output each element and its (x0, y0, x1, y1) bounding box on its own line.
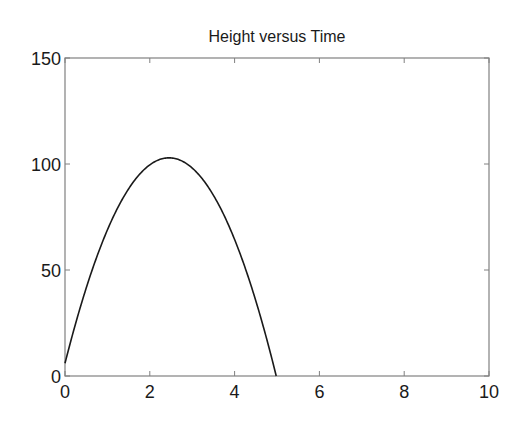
axes (65, 58, 489, 376)
figure: Height versus Time 0246810 050100150 (0, 0, 523, 423)
x-tick-label: 0 (60, 382, 70, 402)
y-tick-label: 0 (51, 367, 61, 387)
y-tick-label: 50 (41, 261, 61, 281)
x-tick-label: 8 (399, 382, 409, 402)
y-axis-ticks: 050100150 (31, 49, 489, 387)
height-curve (65, 158, 276, 376)
chart-title: Height versus Time (209, 28, 346, 45)
x-axis-ticks: 0246810 (60, 58, 499, 402)
x-tick-label: 6 (314, 382, 324, 402)
x-tick-label: 4 (230, 382, 240, 402)
x-tick-label: 10 (479, 382, 499, 402)
y-tick-label: 100 (31, 155, 61, 175)
x-tick-label: 2 (145, 382, 155, 402)
axes-box (65, 58, 489, 376)
chart: Height versus Time 0246810 050100150 (0, 0, 523, 423)
y-tick-label: 150 (31, 49, 61, 69)
